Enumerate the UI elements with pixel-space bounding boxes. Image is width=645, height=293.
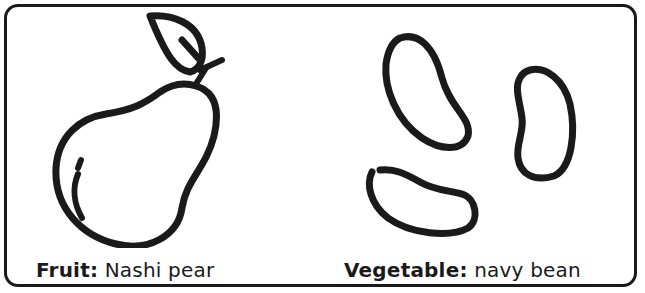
vegetable-category-label: Vegetable: [344, 258, 468, 282]
navy-bean-icon [350, 28, 620, 248]
vegetable-caption: Vegetable: navy bean [344, 258, 581, 282]
pear-icon [20, 8, 260, 248]
fruit-category-label: Fruit: [36, 258, 98, 282]
fruit-caption: Fruit: Nashi pear [36, 258, 214, 282]
vegetable-name: navy bean [474, 258, 581, 282]
fruit-name: Nashi pear [105, 258, 215, 282]
